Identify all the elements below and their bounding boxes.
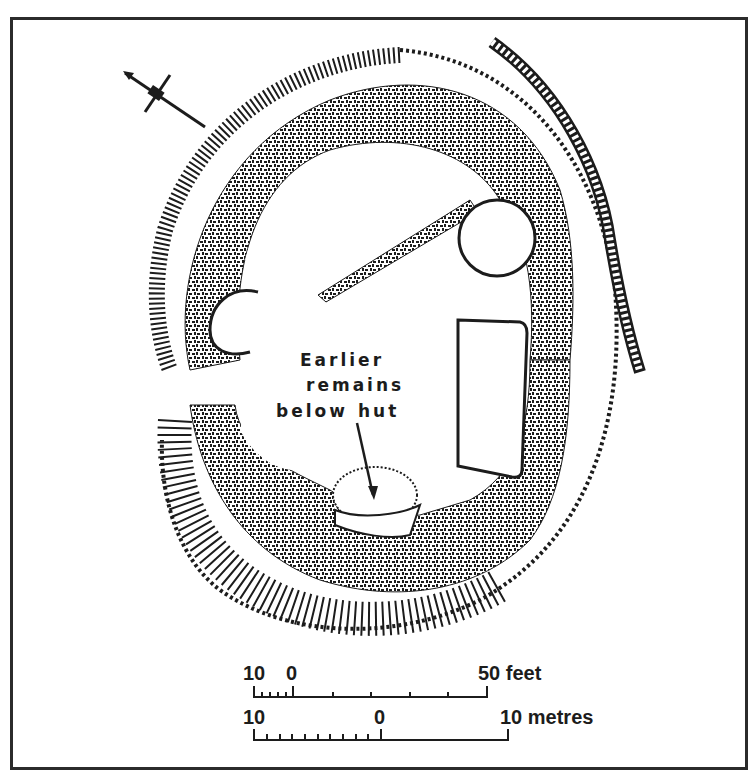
annotation-label-line3-left: below — [276, 400, 348, 422]
scale-metres-left-label: 10 — [243, 706, 265, 728]
scale-metres-zero-label: 0 — [374, 706, 385, 728]
annotation-label-line1: Earlier — [300, 349, 384, 371]
scale-feet-right-label: 50 feet — [478, 662, 541, 684]
north-arrow-icon — [123, 71, 205, 127]
rectangular-building — [458, 320, 527, 477]
hut-circle-northeast — [459, 200, 535, 276]
scale-metres-right-label: 10 metres — [500, 706, 593, 728]
scale-feet-left-label: 10 — [243, 662, 265, 684]
scale-feet-zero-label: 0 — [286, 662, 297, 684]
scale-bar-feet — [254, 686, 487, 697]
annotation-label-line3-right: hut — [358, 400, 399, 422]
scale-bar-metres — [254, 729, 508, 740]
annotation-label-line2: remains — [306, 374, 404, 396]
